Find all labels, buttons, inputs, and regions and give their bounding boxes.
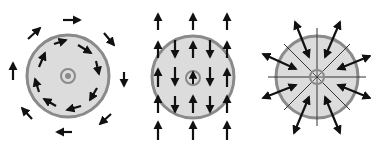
vortex-center-dot: [65, 73, 71, 79]
field-diagrams: [0, 0, 371, 157]
uniform-panel: [152, 14, 234, 140]
radial-panel: [263, 22, 370, 133]
vortex-panel: [13, 20, 124, 132]
diagram-stage: [0, 0, 371, 157]
